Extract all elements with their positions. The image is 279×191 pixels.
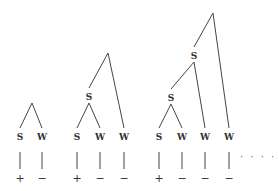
tree-edge bbox=[171, 62, 194, 89]
minus-sign: − bbox=[177, 172, 186, 185]
continuation-ellipsis: · · · · bbox=[240, 151, 276, 162]
minus-sign: − bbox=[37, 172, 46, 185]
weak-node-label: W bbox=[94, 132, 106, 142]
weak-node-label: W bbox=[199, 132, 211, 142]
strong-node-label: S bbox=[168, 93, 175, 103]
tree-edge bbox=[77, 103, 89, 128]
plus-sign: + bbox=[15, 172, 24, 185]
tree-1: SW+− bbox=[15, 103, 48, 185]
strong-node-label: S bbox=[74, 132, 81, 142]
weak-node-label: W bbox=[118, 132, 130, 142]
tree-edge bbox=[194, 62, 205, 128]
tree-edge bbox=[194, 13, 213, 47]
tree-edge bbox=[32, 103, 42, 128]
metrical-tree-diagram: SW+−SSWW+−−SSSWWW+−−− · · · · bbox=[0, 0, 279, 191]
tree-2: SSWW+−− bbox=[72, 53, 130, 185]
plus-sign: + bbox=[72, 172, 81, 185]
tree-edge bbox=[159, 104, 171, 128]
minus-sign: − bbox=[224, 172, 233, 185]
strong-node-label: S bbox=[156, 132, 163, 142]
minus-sign: − bbox=[200, 172, 209, 185]
minus-sign: − bbox=[119, 172, 128, 185]
weak-node-label: W bbox=[176, 132, 188, 142]
tree-edge bbox=[213, 13, 229, 128]
trees: SW+−SSWW+−−SSSWWW+−−− bbox=[15, 13, 235, 185]
tree-edge bbox=[108, 53, 124, 128]
strong-node-label: S bbox=[86, 92, 93, 102]
weak-node-label: W bbox=[223, 132, 235, 142]
tree-3: SSSWWW+−−− bbox=[154, 13, 235, 185]
tree-edge bbox=[20, 103, 32, 128]
plus-sign: + bbox=[154, 172, 163, 185]
strong-node-label: S bbox=[17, 132, 24, 142]
minus-sign: − bbox=[95, 172, 104, 185]
tree-edge bbox=[89, 103, 100, 128]
weak-node-label: W bbox=[36, 132, 48, 142]
tree-edge bbox=[89, 53, 108, 88]
strong-node-label: S bbox=[191, 51, 198, 61]
tree-edge bbox=[171, 104, 182, 128]
